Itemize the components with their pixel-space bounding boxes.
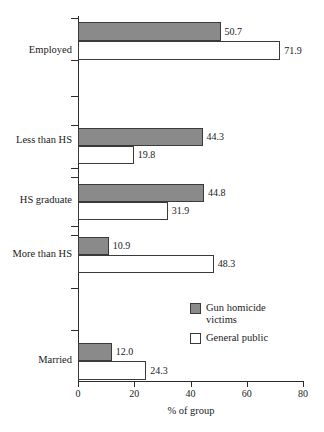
bar-value-label: 24.3	[150, 365, 168, 377]
bar-value-label: 10.9	[113, 240, 131, 252]
bar-value-label: 50.7	[225, 26, 243, 38]
y-axis-tick	[71, 177, 78, 178]
y-axis-tick	[71, 60, 78, 61]
y-axis-tick	[71, 18, 78, 19]
x-axis-tick-label: 0	[63, 388, 93, 400]
bar	[78, 343, 112, 361]
bar-value-label: 71.9	[284, 45, 302, 57]
bar-value-label: 48.3	[218, 258, 236, 270]
bar	[78, 41, 280, 60]
y-axis-category-label-employed: Employed	[29, 44, 72, 56]
bar	[78, 361, 146, 380]
y-axis-tick	[71, 226, 78, 227]
x-axis-tick-label: 20	[119, 388, 149, 400]
bar-value-label: 31.9	[172, 205, 190, 217]
bar	[78, 237, 109, 255]
y-axis-category-label-more-than-hs: More than HS	[13, 248, 73, 260]
y-axis-tick	[71, 235, 78, 236]
chart-container: EmployedLess than HSHS graduateMore than…	[0, 0, 324, 432]
x-axis-tick-label: 40	[176, 388, 206, 400]
bar	[78, 128, 203, 146]
y-axis-tick	[71, 125, 78, 126]
y-axis-tick	[71, 288, 78, 289]
x-axis-tick	[78, 382, 79, 387]
legend-swatch-filled-square	[190, 303, 201, 314]
legend-label: General public	[206, 332, 268, 344]
x-axis-tick	[191, 382, 192, 387]
y-axis-tick	[71, 96, 78, 97]
legend: Gun homicide victims General public	[190, 302, 284, 351]
bar	[78, 22, 221, 41]
bar	[78, 146, 134, 164]
bar	[78, 202, 168, 220]
x-axis-tick	[134, 382, 135, 387]
bar-value-label: 44.3	[207, 131, 225, 143]
x-axis-tick	[303, 382, 304, 387]
bar-value-label: 19.8	[138, 149, 156, 161]
bar	[78, 255, 214, 273]
y-axis-category-label-less-than-hs: Less than HS	[16, 134, 72, 146]
x-axis-tick	[247, 382, 248, 387]
x-axis-title: % of group	[78, 405, 304, 417]
y-axis-category-label-married: Married	[38, 354, 72, 366]
legend-label: Gun homicide victims	[206, 302, 284, 325]
legend-item-gun-homicide-victims: Gun homicide victims	[190, 302, 284, 325]
legend-item-general-public: General public	[190, 332, 284, 344]
y-axis-tick	[71, 168, 78, 169]
bar-value-label: 12.0	[116, 346, 134, 358]
y-axis-tick	[71, 330, 78, 331]
y-axis-category-label-hs-graduate: HS graduate	[20, 194, 72, 206]
bar-value-label: 44.8	[208, 187, 226, 199]
x-axis-tick-label: 80	[288, 388, 318, 400]
x-axis-tick-label: 60	[232, 388, 262, 400]
bar	[78, 184, 204, 202]
legend-swatch-hollow-square	[190, 333, 201, 344]
